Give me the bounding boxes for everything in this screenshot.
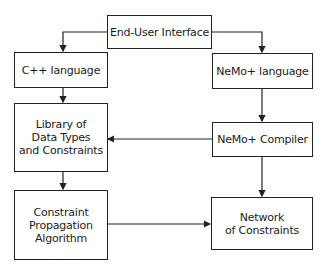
edge-interface-to-nemo bbox=[212, 32, 262, 52]
node-label: Network bbox=[240, 211, 285, 224]
edge-interface-to-cpp bbox=[63, 32, 107, 51]
node-label: Data Types bbox=[32, 131, 91, 144]
node-cpp-language: C++ language bbox=[14, 52, 108, 88]
node-label: of Constraints bbox=[225, 224, 299, 237]
node-label: C++ language bbox=[22, 64, 100, 77]
node-label: Algorithm bbox=[35, 232, 87, 245]
node-label: End-User Interface bbox=[110, 26, 209, 39]
node-label: Constraint bbox=[33, 206, 88, 219]
node-label: NeMo+ Compiler bbox=[217, 133, 308, 146]
node-constraint-propagation: Constraint Propagation Algorithm bbox=[14, 190, 108, 260]
node-label: NeMo+ language bbox=[216, 65, 308, 78]
node-label: Library of bbox=[36, 118, 87, 131]
node-nemo-compiler: NeMo+ Compiler bbox=[212, 122, 313, 157]
node-label: Propagation bbox=[29, 219, 93, 232]
node-network: Network of Constraints bbox=[211, 197, 313, 250]
node-label: and Constraints bbox=[19, 144, 103, 157]
node-end-user-interface: End-User Interface bbox=[107, 15, 212, 49]
node-library: Library of Data Types and Constraints bbox=[14, 103, 108, 172]
node-nemo-language: NeMo+ language bbox=[212, 53, 313, 89]
